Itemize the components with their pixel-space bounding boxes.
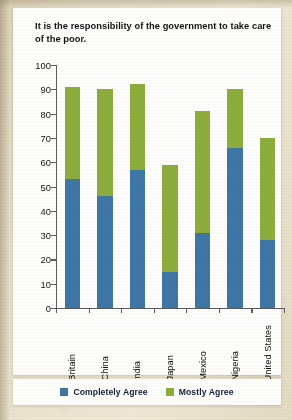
legend-swatch-icon xyxy=(166,388,174,396)
y-axis-tick-label: 20 xyxy=(41,254,51,265)
legend-swatch-icon xyxy=(60,388,68,396)
y-axis-tick-label: 10 xyxy=(41,278,51,289)
scan-shadow-left xyxy=(0,0,10,420)
y-axis-tick xyxy=(51,89,56,90)
y-axis-tick-label: 80 xyxy=(41,108,51,119)
stacked-bar[interactable] xyxy=(195,111,211,308)
chart-title: It is the responsibility of the governme… xyxy=(35,20,273,46)
x-axis-tick xyxy=(284,308,285,313)
bar-segment-mostly-agree xyxy=(162,165,178,272)
plot-area xyxy=(56,65,284,308)
chart-card: It is the responsibility of the governme… xyxy=(13,8,281,375)
x-axis-category-label: India xyxy=(132,361,142,381)
chart-legend: Completely AgreeMostly Agree xyxy=(13,379,281,405)
bar-segment-mostly-agree xyxy=(260,138,276,240)
y-axis-tick-label: 50 xyxy=(41,181,51,192)
bar-segment-completely-agree xyxy=(97,196,113,308)
stacked-bar[interactable] xyxy=(130,84,146,308)
y-axis-tick-label: 70 xyxy=(41,132,51,143)
bar-segment-mostly-agree xyxy=(195,111,211,233)
y-axis-tick xyxy=(51,235,56,236)
y-axis-tick-label: 30 xyxy=(41,230,51,241)
x-axis-category-label: United States xyxy=(263,325,273,381)
x-axis-category-label: Britain xyxy=(67,354,77,381)
x-axis-category-label: Mexico xyxy=(198,351,208,381)
x-axis-line xyxy=(56,308,284,309)
stacked-bar[interactable] xyxy=(227,89,243,308)
y-axis-tick xyxy=(51,138,56,139)
y-axis-tick xyxy=(51,259,56,260)
bar-segment-completely-agree xyxy=(162,272,178,308)
y-axis-tick xyxy=(51,284,56,285)
stacked-bar[interactable] xyxy=(97,89,113,308)
paper-smudge xyxy=(62,410,67,413)
legend-label: Mostly Agree xyxy=(179,387,234,397)
y-axis-tick xyxy=(51,114,56,115)
stacked-bar[interactable] xyxy=(162,165,178,308)
y-axis-labels: 0102030405060708090100 xyxy=(13,65,51,308)
x-axis-category-label: Nigeria xyxy=(230,351,240,381)
bar-segment-mostly-agree xyxy=(130,84,146,169)
bar-segment-mostly-agree xyxy=(227,89,243,147)
bar-segment-mostly-agree xyxy=(65,87,81,179)
scan-shadow-top xyxy=(0,0,292,8)
y-axis-tick-label: 100 xyxy=(35,60,51,71)
bar-segment-completely-agree xyxy=(260,240,276,308)
x-axis-category-label: China xyxy=(100,356,110,381)
stacked-bar[interactable] xyxy=(260,138,276,308)
y-axis-tick xyxy=(51,187,56,188)
y-axis-tick-label: 40 xyxy=(41,205,51,216)
legend-label: Completely Agree xyxy=(73,387,147,397)
y-axis-tick xyxy=(51,65,56,66)
bar-segment-completely-agree xyxy=(195,233,211,308)
y-axis-tick xyxy=(51,162,56,163)
bar-segment-mostly-agree xyxy=(97,89,113,196)
bar-segment-completely-agree xyxy=(65,179,81,308)
x-axis-category-label: Japan xyxy=(165,355,175,381)
legend-item[interactable]: Completely Agree xyxy=(60,387,147,397)
stacked-bar[interactable] xyxy=(65,87,81,308)
bar-segment-completely-agree xyxy=(130,170,146,309)
y-axis-tick-label: 60 xyxy=(41,157,51,168)
y-axis-tick-label: 90 xyxy=(41,84,51,95)
x-axis-labels: BritainChinaIndiaJapanMexicoNigeriaUnite… xyxy=(56,311,284,381)
bar-segment-completely-agree xyxy=(227,148,243,308)
legend-item[interactable]: Mostly Agree xyxy=(166,387,234,397)
y-axis-tick xyxy=(51,211,56,212)
bar-series-group xyxy=(56,65,284,308)
